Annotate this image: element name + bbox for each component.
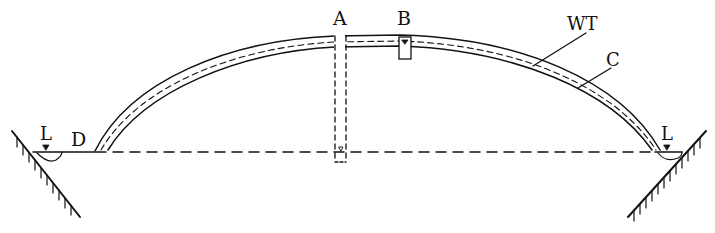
label-WT: WT [567, 13, 598, 34]
label-C: C [606, 49, 620, 70]
label-D: D [71, 128, 86, 150]
left-lake-level-marker [43, 145, 49, 150]
label-B: B [397, 7, 411, 29]
label-L-right: L [661, 123, 673, 144]
well-A [334, 30, 346, 162]
label-L-left: L [40, 123, 52, 144]
right-hillside [628, 131, 706, 221]
water-table-dashed-arc [101, 41, 656, 150]
right-lake [655, 152, 682, 160]
well-B [399, 37, 411, 59]
lower-arc-boundary [108, 46, 652, 150]
left-lake [33, 152, 95, 161]
right-lake-level-marker [664, 145, 670, 150]
wt-leader-line [533, 33, 586, 66]
upper-arc-boundary [95, 35, 660, 151]
label-A: A [332, 7, 347, 29]
cross-section-diagram: A B WT C D L L [0, 0, 715, 233]
